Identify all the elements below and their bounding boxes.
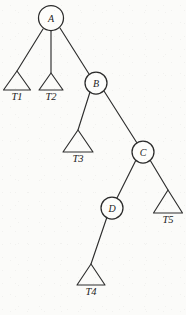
subtree-label-t3: T3 [72,153,83,164]
subtrees-layer: T1T2T3T4T5 [4,71,183,297]
subtree-triangle-t1 [4,71,31,90]
node-label-d: D [107,203,116,214]
nodes-layer: ABCD [39,6,155,220]
tree-diagram-canvas: T1T2T3T4T5 ABCD [0,0,186,315]
edge-d-t4 [91,217,107,264]
subtree-triangle-t2 [39,73,63,90]
node-label-a: A [47,13,55,24]
edge-a-b [60,28,89,74]
edge-c-d [117,160,136,198]
subtree-triangle-t3 [63,130,93,152]
subtree-triangle-t5 [154,190,183,213]
node-label-c: C [140,147,147,158]
subtree-label-t4: T4 [85,286,97,297]
node-label-b: B [93,78,99,89]
tree-node-c: C [132,141,154,163]
subtree-label-t5: T5 [162,214,173,225]
edge-c-t5 [150,160,168,190]
edge-b-c [104,91,137,143]
edge-b-t3 [78,92,90,130]
subtree-label-t2: T2 [45,91,57,102]
edge-a-t1 [17,29,43,71]
subtree-triangle-t4 [77,264,105,285]
tree-node-a: A [39,6,64,31]
tree-node-d: D [101,197,123,219]
tree-node-b: B [85,72,107,94]
subtree-label-t1: T1 [11,91,22,102]
tree-figure: T1T2T3T4T5 ABCD [0,0,186,315]
